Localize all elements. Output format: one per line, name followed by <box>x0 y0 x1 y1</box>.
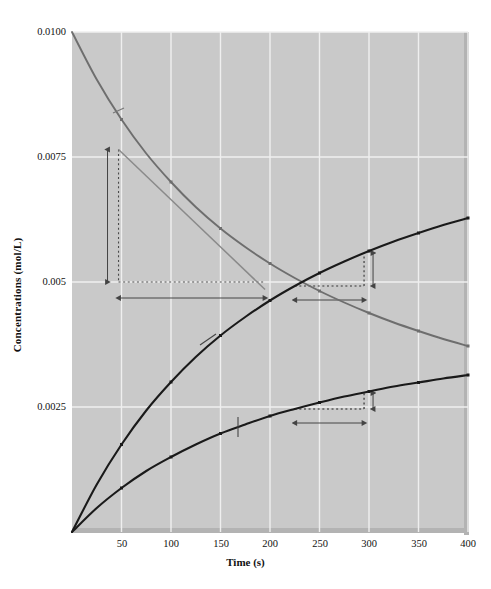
data-point-no2 <box>120 118 123 121</box>
data-point-o2 <box>368 390 371 393</box>
data-point-no2 <box>467 345 470 348</box>
data-point-no2 <box>318 290 321 293</box>
plot-canvas <box>0 0 491 589</box>
data-point-o2 <box>170 456 173 459</box>
data-point-no2 <box>368 312 371 315</box>
data-point-no <box>219 334 222 337</box>
data-point-no2 <box>269 262 272 265</box>
data-point-o2 <box>318 401 321 404</box>
data-point-no2 <box>417 330 420 333</box>
data-point-o2 <box>120 487 123 490</box>
data-point-no <box>170 381 173 384</box>
data-point-o2 <box>467 374 470 377</box>
data-point-no <box>467 217 470 220</box>
data-point-no <box>417 232 420 235</box>
data-point-no <box>269 299 272 302</box>
data-point-o2 <box>219 432 222 435</box>
data-point-no <box>318 272 321 275</box>
data-point-no2 <box>170 181 173 184</box>
data-point-no <box>368 250 371 253</box>
data-point-o2 <box>269 415 272 418</box>
data-point-o2 <box>417 381 420 384</box>
chart-figure: Concentrations (mol/L) Time (s) 0.0100 0… <box>0 0 491 589</box>
data-point-no <box>120 443 123 446</box>
data-point-no2 <box>219 227 222 230</box>
